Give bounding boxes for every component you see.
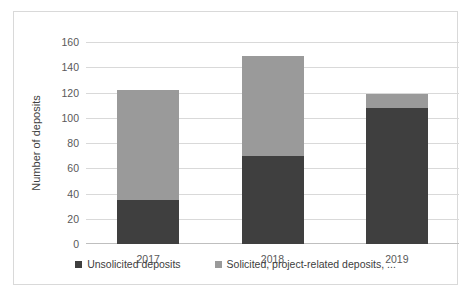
bar-segment[interactable] [117, 90, 179, 200]
legend-item-label: Unsolicited deposits [87, 258, 180, 270]
legend-item[interactable]: Unsolicited deposits [75, 258, 180, 270]
y-axis-tick-label: 40 [67, 188, 79, 200]
y-axis-tick-label: 120 [61, 87, 79, 99]
y-axis-tick-label: 160 [61, 36, 79, 48]
y-axis-tick-label: 140 [61, 61, 79, 73]
bar-segment[interactable] [366, 108, 428, 244]
legend-item-label: Solicited, project-related deposits, ... [227, 258, 396, 270]
plot-area: 020406080100120140160 201720182019 [86, 42, 459, 244]
legend-item[interactable]: Solicited, project-related deposits, ... [215, 258, 396, 270]
gridline [86, 42, 459, 43]
legend-swatch-icon [75, 261, 82, 268]
y-axis-title: Number of deposits [30, 95, 42, 190]
bar-segment[interactable] [242, 56, 304, 156]
y-axis-tick-label: 60 [67, 162, 79, 174]
chart-container: Number of deposits 020406080100120140160… [13, 11, 458, 285]
y-axis-tick-label: 80 [67, 137, 79, 149]
y-axis-tick-label: 0 [73, 238, 79, 250]
y-axis-tick-label: 20 [67, 213, 79, 225]
legend-swatch-icon [215, 261, 222, 268]
chart-legend: Unsolicited depositsSolicited, project-r… [14, 258, 457, 270]
bar-segment[interactable] [117, 200, 179, 244]
bar-segment[interactable] [242, 156, 304, 244]
bar-segment[interactable] [366, 94, 428, 108]
y-axis-tick-label: 100 [61, 112, 79, 124]
